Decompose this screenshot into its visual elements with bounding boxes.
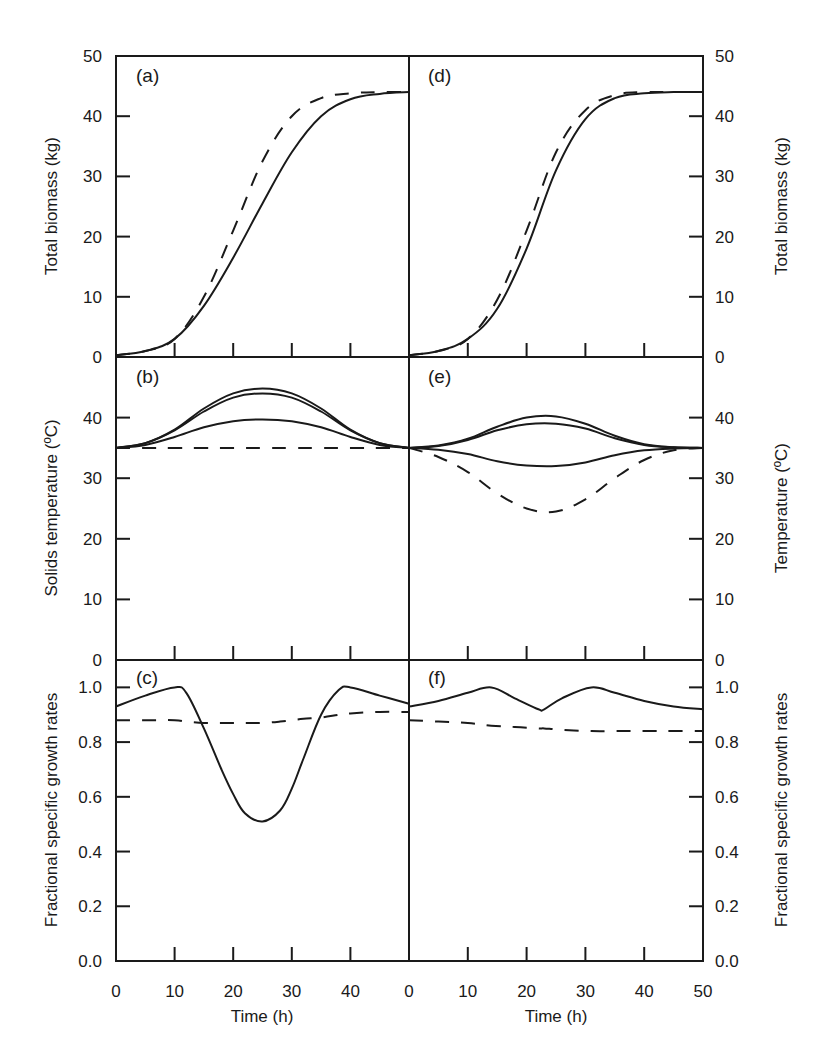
y-tick-label: 0 <box>715 651 724 670</box>
figure-canvas: (a) (b) (c) (d) (e) (f) Total biomass (k… <box>0 0 829 1064</box>
y-tick-label: 50 <box>83 47 102 66</box>
x-tick-label: 10 <box>458 982 477 1001</box>
y-tick-label: 30 <box>83 167 102 186</box>
y-tick-label: 50 <box>715 47 734 66</box>
y-axis-title-b: Solids temperature (ºC) <box>42 419 61 596</box>
y-axis-title-f: Fractional specific growth rates <box>772 693 791 927</box>
y-tick-label: 30 <box>715 167 734 186</box>
y-tick-label: 1.0 <box>78 678 102 697</box>
x-tick-label: 10 <box>165 982 184 1001</box>
y-tick-label: 20 <box>715 530 734 549</box>
panel-frame-f <box>409 660 703 961</box>
y-tick-label: 40 <box>715 409 734 428</box>
x-tick-label: 30 <box>282 982 301 1001</box>
y-tick-label: 0.6 <box>715 788 739 807</box>
y-tick-label: 0.6 <box>78 788 102 807</box>
y-tick-label: 0.8 <box>78 733 102 752</box>
y-axis-title-d: Total biomass (kg) <box>772 137 791 275</box>
series-solid <box>409 687 703 710</box>
panel-label-d: (d) <box>428 65 451 86</box>
y-tick-label: 0.0 <box>78 952 102 971</box>
panel-label-c: (c) <box>136 667 158 688</box>
series-dashed <box>409 720 703 731</box>
y-tick-label: 20 <box>83 228 102 247</box>
y-tick-label: 0.4 <box>78 843 102 862</box>
y-tick-label: 10 <box>715 590 734 609</box>
y-tick-label: 1.0 <box>715 678 739 697</box>
x-tick-label: 0 <box>404 982 413 1001</box>
y-axis-title-a: Total biomass (kg) <box>42 137 61 275</box>
y-axis-title-c: Fractional specific growth rates <box>42 693 61 927</box>
series-solid-lower <box>409 448 703 466</box>
y-tick-label: 0.8 <box>715 733 739 752</box>
panel-label-e: (e) <box>428 366 451 387</box>
panel-frames <box>116 56 703 961</box>
y-tick-label: 10 <box>715 288 734 307</box>
x-tick-label: 50 <box>694 982 713 1001</box>
y-tick-label: 10 <box>83 590 102 609</box>
x-axis-title-right: Time (h) <box>525 1007 588 1026</box>
y-axis-title-e: Temperature (ºC) <box>772 443 791 573</box>
panel-frame-c <box>116 660 409 961</box>
panel-frame-d <box>409 56 703 357</box>
y-tick-label: 40 <box>715 107 734 126</box>
y-tick-label: 0.0 <box>715 952 739 971</box>
y-tick-label: 20 <box>715 228 734 247</box>
x-axis-title-left: Time (h) <box>231 1007 294 1026</box>
y-tick-label: 0 <box>93 348 102 367</box>
series-dashed <box>409 92 703 355</box>
series-dashed <box>116 92 409 355</box>
panel-label-b: (b) <box>136 366 159 387</box>
series-solid-middle <box>116 393 409 448</box>
series-dashed <box>116 712 409 723</box>
series-solid <box>409 92 703 355</box>
x-tick-label: 20 <box>224 982 243 1001</box>
x-tick-label: 40 <box>635 982 654 1001</box>
series-solid-upper <box>116 389 409 448</box>
y-tick-label: 30 <box>715 469 734 488</box>
x-tick-label: 0 <box>111 982 120 1001</box>
y-tick-label: 0.2 <box>715 897 739 916</box>
y-tick-label: 30 <box>83 469 102 488</box>
series-solid <box>116 686 409 821</box>
panel-label-f: (f) <box>428 667 446 688</box>
series-solid-lower <box>116 419 409 448</box>
y-tick-label: 10 <box>83 288 102 307</box>
series-solid-middle <box>409 423 703 448</box>
y-tick-label: 20 <box>83 530 102 549</box>
y-tick-label: 0.2 <box>78 897 102 916</box>
series-solid <box>116 92 409 355</box>
panel-frame-e <box>409 357 703 660</box>
y-tick-label: 0 <box>93 651 102 670</box>
panel-label-a: (a) <box>136 65 159 86</box>
series-dashed <box>409 448 703 512</box>
y-tick-label: 0 <box>715 348 724 367</box>
axis-text: (a) (b) (c) (d) (e) (f) Total biomass (k… <box>42 47 791 1026</box>
x-tick-label: 30 <box>576 982 595 1001</box>
y-tick-label: 40 <box>83 409 102 428</box>
y-tick-label: 0.4 <box>715 843 739 862</box>
y-tick-label: 40 <box>83 107 102 126</box>
panel-frame-b <box>116 357 409 660</box>
panel-frame-a <box>116 56 409 357</box>
x-tick-label: 20 <box>517 982 536 1001</box>
x-tick-label: 40 <box>341 982 360 1001</box>
